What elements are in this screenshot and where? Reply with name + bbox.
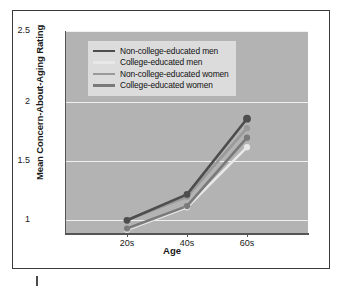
x-tick-mark-40s: [187, 233, 188, 237]
plot-area: Non-college-educated men College-educate…: [66, 31, 308, 233]
data-point: [244, 144, 250, 150]
legend-swatch-icon: [93, 61, 115, 64]
data-point: [244, 125, 250, 131]
data-point: [184, 191, 191, 198]
x-tick-label-20s: 20s: [104, 238, 150, 248]
caption-rule-mark: [36, 276, 38, 286]
chart-figure-frame: Mean Concern-About-Aging Rating Age: [12, 10, 330, 269]
chart-legend: Non-college-educated men College-educate…: [88, 41, 236, 96]
data-point: [124, 217, 131, 224]
legend-item-non-college-educated-women: Non-college-educated women: [93, 68, 229, 80]
legend-swatch-icon: [93, 50, 115, 53]
y-tick-label-2-5: 2.5: [0, 25, 30, 35]
data-point: [244, 135, 250, 141]
legend-label: Non-college-educated women: [120, 69, 229, 79]
series-line-college-educated-women: [127, 138, 247, 229]
y-axis-title: Mean Concern-About-Aging Rating: [34, 13, 45, 193]
y-tick-label-1-5: 1.5: [0, 155, 30, 165]
x-tick-mark-20s: [127, 233, 128, 237]
legend-item-college-educated-women: College-educated women: [93, 80, 229, 92]
x-tick-label-40s: 40s: [164, 238, 210, 248]
legend-label: College-educated women: [120, 80, 213, 90]
legend-swatch-icon: [93, 73, 115, 76]
legend-item-college-educated-men: College-educated men: [93, 57, 229, 69]
x-tick-mark-60s: [247, 233, 248, 237]
x-tick-label-60s: 60s: [224, 238, 270, 248]
y-tick-label-2-0: 2: [0, 96, 30, 106]
data-point: [184, 203, 190, 209]
data-point: [243, 115, 251, 123]
data-point: [124, 225, 130, 231]
legend-label: College-educated men: [120, 57, 202, 67]
y-tick-label-1-0: 1: [0, 214, 30, 224]
legend-item-non-college-educated-men: Non-college-educated men: [93, 45, 229, 57]
legend-label: Non-college-educated men: [120, 46, 218, 56]
legend-swatch-icon: [93, 84, 115, 87]
